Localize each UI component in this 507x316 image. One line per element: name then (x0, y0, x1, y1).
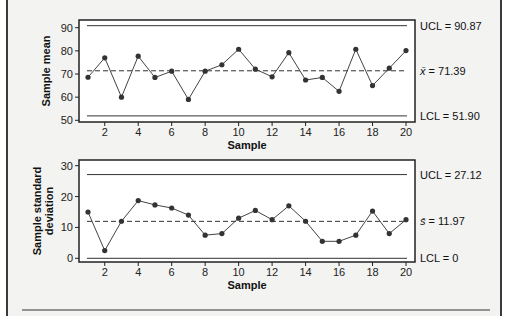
data-point (286, 203, 291, 208)
data-point (102, 55, 107, 60)
data-point (203, 233, 208, 238)
s-y-axis-title: Sample standarddeviation (31, 167, 55, 256)
data-point (387, 66, 392, 71)
data-point (403, 217, 408, 222)
control-charts: 5060708090 2468101214161820 Sample Sampl… (0, 0, 507, 316)
xbar-chart: 5060708090 2468101214161820 Sample Sampl… (40, 20, 482, 151)
s-chart: 0102030 2468101214161820 Sample Sample s… (31, 160, 482, 291)
data-point (286, 50, 291, 55)
data-point (370, 83, 375, 88)
data-point (85, 75, 90, 80)
x-tick-label: 6 (169, 126, 175, 138)
y-tick-label: 80 (61, 45, 73, 57)
data-point (370, 208, 375, 213)
data-point (303, 77, 308, 82)
s-center-label: s̄ = 11.97 (420, 215, 465, 227)
data-point (219, 62, 224, 67)
data-point (85, 209, 90, 214)
x-tick-label: 20 (400, 266, 412, 278)
xbar-center-value: = 71.39 (426, 65, 466, 77)
x-tick-label: 14 (299, 266, 311, 278)
data-point (203, 69, 208, 74)
x-tick-label: 2 (102, 266, 108, 278)
s-y-axis: 0102030 (61, 160, 79, 265)
x-tick-label: 8 (202, 266, 208, 278)
y-tick-label: 0 (67, 252, 73, 264)
data-point (169, 205, 174, 210)
x-tick-label: 4 (135, 266, 141, 278)
x-tick-label: 10 (233, 126, 245, 138)
s-y-axis-title-line1: Sample standard (31, 167, 43, 256)
xbar-lcl-label: LCL = 51.90 (420, 110, 480, 122)
x-tick-label: 12 (266, 266, 278, 278)
y-tick-label: 90 (61, 22, 73, 34)
data-point (186, 97, 191, 102)
s-lcl-label: LCL = 0 (420, 252, 458, 264)
x-tick-label: 6 (169, 266, 175, 278)
s-center-value: = 11.97 (426, 215, 465, 227)
y-tick-label: 20 (61, 191, 73, 203)
data-point (236, 216, 241, 221)
x-tick-label: 10 (233, 266, 245, 278)
data-point (136, 198, 141, 203)
s-y-axis-title-line2: deviation (43, 187, 55, 236)
data-point (152, 75, 157, 80)
xbar-ucl-label: UCL = 90.87 (420, 20, 482, 32)
data-point (119, 219, 124, 224)
s-x-axis: 2468101214161820 (102, 262, 412, 278)
data-point (353, 233, 358, 238)
x-tick-label: 12 (266, 126, 278, 138)
y-tick-label: 10 (61, 221, 73, 233)
data-point (219, 231, 224, 236)
x-tick-label: 14 (299, 126, 311, 138)
x-tick-label: 4 (135, 126, 141, 138)
data-point (253, 208, 258, 213)
xbar-x-axis: 2468101214161820 (102, 122, 412, 138)
data-point (270, 74, 275, 79)
data-point (236, 47, 241, 52)
data-point (320, 239, 325, 244)
data-point (336, 89, 341, 94)
data-point (136, 54, 141, 59)
x-tick-label: 8 (202, 126, 208, 138)
s-ucl-label: UCL = 27.12 (420, 169, 482, 181)
x-tick-label: 2 (102, 126, 108, 138)
data-point (152, 202, 157, 207)
data-point (387, 231, 392, 236)
data-point (270, 217, 275, 222)
y-tick-label: 30 (61, 160, 73, 172)
xbar-x-axis-title: Sample (227, 139, 266, 151)
x-tick-label: 20 (400, 126, 412, 138)
data-point (169, 69, 174, 74)
xbar-y-axis-title: Sample mean (40, 35, 52, 106)
xbar-center-label: x̄ = 71.39 (419, 65, 466, 77)
x-tick-label: 18 (366, 126, 378, 138)
data-point (320, 75, 325, 80)
y-tick-label: 70 (61, 68, 73, 80)
data-point (353, 47, 358, 52)
x-tick-label: 18 (366, 266, 378, 278)
x-tick-label: 16 (333, 126, 345, 138)
data-point (253, 67, 258, 72)
data-point (336, 239, 341, 244)
x-tick-label: 16 (333, 266, 345, 278)
s-x-axis-title: Sample (227, 279, 266, 291)
data-point (303, 219, 308, 224)
y-tick-label: 50 (61, 114, 73, 126)
y-tick-label: 60 (61, 91, 73, 103)
data-point (119, 95, 124, 100)
data-point (186, 212, 191, 217)
data-point (102, 248, 107, 253)
xbar-y-axis: 5060708090 (61, 22, 79, 127)
data-point (403, 48, 408, 53)
